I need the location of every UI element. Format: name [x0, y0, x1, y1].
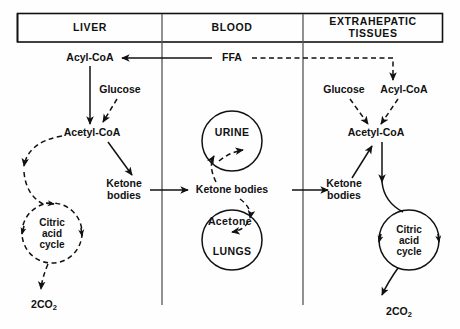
liver-cycle-label-line1: Citric	[39, 217, 65, 228]
arrowhead-liver-cycle-top	[46, 203, 54, 204]
node-ffa: FFA	[222, 51, 242, 63]
arrow-liver-glucose-to-acetyl	[103, 99, 117, 122]
node-liver-acyl-coa: Acyl-CoA	[66, 51, 114, 63]
header-label-extrahepatic-line1: EXTRAHEPATIC	[329, 15, 416, 27]
label-lungs: LUNGS	[213, 245, 252, 257]
extrahepatic-cycle-label-line3: cycle	[396, 246, 421, 257]
node-liver-ketone-bodies-line2: bodies	[107, 189, 141, 201]
extrahepatic-cycle-label-line2: acid	[399, 235, 419, 246]
ketone-metabolism-diagram: LIVER BLOOD EXTRAHEPATIC TISSUES FFA Acy…	[0, 0, 460, 329]
label-acetone: Acetone	[208, 215, 252, 227]
arrowhead-liver-cycle-right	[81, 228, 82, 236]
extrahepatic-column-content: Glucose Acyl-CoA Acetyl-CoA Ketone bodie…	[292, 83, 439, 319]
header-label-extrahepatic-line2: TISSUES	[348, 27, 397, 39]
node-extrahepatic-acyl-coa: Acyl-CoA	[380, 83, 428, 95]
metabolism-flow-svg: LIVER BLOOD EXTRAHEPATIC TISSUES FFA Acy…	[0, 0, 460, 329]
node-blood-ketone-bodies: Ketone bodies	[196, 183, 269, 195]
arrow-liver-cycle-to-co2	[41, 264, 48, 289]
node-extrahepatic-ketone-bodies-line2: bodies	[327, 189, 361, 201]
blood-column-content: URINE Ketone bodies Acetone LUNGS	[150, 111, 268, 270]
path-extrahepatic-cycle-entry	[382, 182, 403, 212]
arrow-urine-uptake	[219, 150, 243, 161]
label-urine: URINE	[215, 126, 250, 138]
path-liver-cycle-entry	[24, 172, 45, 205]
liver-cycle-label-line3: cycle	[39, 239, 64, 250]
arrow-liver-acetyl-to-ketone	[108, 142, 132, 175]
liver-column-content: Acyl-CoA Glucose Acetyl-CoA Ketone bodie…	[22, 51, 142, 312]
node-extrahepatic-ketone-bodies-line1: Ketone	[326, 177, 362, 189]
arrowhead-liver-cycle-left	[22, 226, 24, 234]
column-headers: LIVER BLOOD EXTRAHEPATIC TISSUES	[73, 15, 417, 39]
arrow-extrahepatic-cycle-to-co2	[382, 268, 398, 295]
liver-co2-output: 2CO2	[31, 298, 57, 312]
arrow-extrahepatic-glucose-to-acetyl	[350, 99, 368, 124]
header-label-liver: LIVER	[73, 21, 107, 33]
extrahepatic-co2-output: 2CO2	[386, 305, 412, 319]
header-label-blood: BLOOD	[212, 21, 253, 33]
node-liver-glucose: Glucose	[99, 83, 141, 95]
extrahepatic-cycle-label-line1: Citric	[396, 224, 422, 235]
node-extrahepatic-acetyl-coa: Acetyl-CoA	[348, 126, 405, 138]
node-liver-ketone-bodies-line1: Ketone	[106, 177, 142, 189]
node-liver-acetyl-coa: Acetyl-CoA	[64, 126, 121, 138]
arrow-extrahepatic-ketone-to-acetyl	[352, 146, 372, 178]
arrow-liver-acetyl-to-cycle	[24, 136, 62, 166]
liver-cycle-label-line2: acid	[42, 228, 62, 239]
arrow-extrahepatic-acyl-to-acetyl	[381, 99, 398, 124]
arrow-ketone-to-urine	[211, 156, 216, 182]
node-extrahepatic-glucose: Glucose	[323, 83, 365, 95]
arrowhead-extrahepatic-cycle-right	[438, 234, 439, 242]
arrow-ffa-to-extrahepatic-acyl-coa	[252, 58, 393, 80]
